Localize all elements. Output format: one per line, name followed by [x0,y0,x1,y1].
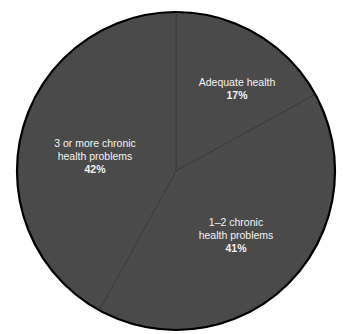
slice-category: health problems [54,150,136,163]
slice-label-3-or-more-chronic: 3 or more chronic health problems 42% [54,137,136,176]
slice-category: Adequate health [199,76,275,89]
slice-category: 1–2 chronic [199,216,274,229]
slice-category: health problems [199,229,274,242]
slice-label-1-2-chronic: 1–2 chronic health problems 41% [199,216,274,255]
slice-percent: 41% [199,242,274,255]
slice-category: 3 or more chronic [54,137,136,150]
slice-percent: 17% [199,89,275,102]
slice-label-adequate-health: Adequate health 17% [199,76,275,102]
slice-percent: 42% [54,163,136,176]
pie-chart [0,0,348,334]
